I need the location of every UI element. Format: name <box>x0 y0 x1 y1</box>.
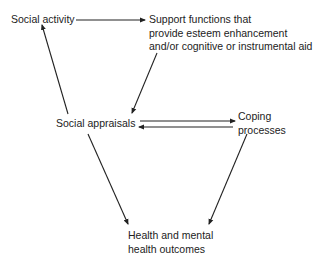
node-label-line: provide esteem enhancement <box>149 27 312 41</box>
node-coping-processes: Coping processes <box>238 110 286 137</box>
arrow-coping-to-health <box>209 134 247 224</box>
node-support-functions: Support functions that provide esteem en… <box>149 13 312 54</box>
node-social-activity: Social activity <box>11 13 75 27</box>
node-health-outcomes: Health and mental health outcomes <box>128 229 213 256</box>
node-label-line: and/or cognitive or instrumental aid <box>149 40 312 54</box>
arrow-appraisals-to-health <box>88 134 128 224</box>
node-social-appraisals: Social appraisals <box>56 117 135 131</box>
node-label-line: Support functions that <box>149 13 312 27</box>
node-label-line: Coping <box>238 110 286 124</box>
node-label-line: health outcomes <box>128 243 213 257</box>
node-label-line: Health and mental <box>128 229 213 243</box>
node-label: Social appraisals <box>56 117 135 129</box>
arrow-appraisals-to-activity <box>42 25 68 114</box>
node-label: Social activity <box>11 13 75 25</box>
arrow-support-to-appraisals <box>132 53 157 113</box>
node-label-line: processes <box>238 124 286 138</box>
